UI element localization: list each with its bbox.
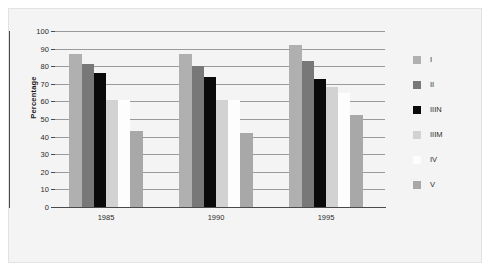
legend-swatch-icon <box>413 106 421 114</box>
y-axis-tick-label: 80 <box>40 62 49 71</box>
y-axis-tick-label: 40 <box>40 132 49 141</box>
legend-item-v[interactable]: V <box>413 172 477 197</box>
bar-iiin-1995 <box>314 79 326 207</box>
bar-iiim-1995 <box>326 87 338 207</box>
y-axis-tick-label: 30 <box>40 150 49 159</box>
legend-swatch-icon <box>413 131 421 139</box>
bar-v-1990 <box>240 133 252 207</box>
bar-ii-1995 <box>302 61 314 207</box>
bar-iv-1995 <box>338 93 350 207</box>
legend-item-iv[interactable]: IV <box>413 147 477 172</box>
plot-area <box>55 31 385 207</box>
y-axis-tick-label: 60 <box>40 97 49 106</box>
bar-iv-1990 <box>228 100 240 207</box>
bar-iiin-1990 <box>204 77 216 207</box>
legend-item-iiin[interactable]: IIIN <box>413 97 477 122</box>
y-axis-tick-label: 0 <box>45 203 49 212</box>
legend-swatch-icon <box>413 181 421 189</box>
x-axis-label-1985: 1985 <box>98 213 115 222</box>
bar-iiim-1985 <box>106 100 118 207</box>
legend-label: IV <box>430 155 437 164</box>
bar-iv-1985 <box>118 100 130 207</box>
bar-i-1985 <box>69 54 81 207</box>
y-axis-tick <box>51 207 55 208</box>
bar-v-1995 <box>350 115 362 207</box>
legend-label: I <box>430 55 432 64</box>
legend-swatch-icon <box>413 81 421 89</box>
bar-v-1985 <box>130 131 142 207</box>
chart-figure: 0102030405060708090100 Percentage 198519… <box>8 8 482 263</box>
legend-item-i[interactable]: I <box>413 47 477 72</box>
y-axis-tick-label: 90 <box>40 44 49 53</box>
y-axis-tick-label: 20 <box>40 167 49 176</box>
chart-legend: IIIIIINIIIMIVV <box>413 47 477 197</box>
legend-label: IIIM <box>430 130 443 139</box>
legend-label: IIIN <box>430 105 442 114</box>
y-axis-tick-labels: 0102030405060708090100 <box>23 9 49 264</box>
legend-item-iiim[interactable]: IIIM <box>413 122 477 147</box>
legend-label: II <box>430 80 434 89</box>
y-axis-tick-label: 70 <box>40 79 49 88</box>
y-axis-tick-label: 50 <box>40 115 49 124</box>
bar-i-1990 <box>179 54 191 207</box>
x-axis-label-1990: 1990 <box>208 213 225 222</box>
bar-iiim-1990 <box>216 100 228 207</box>
bar-i-1995 <box>289 45 301 207</box>
x-axis-line <box>55 207 386 208</box>
legend-label: V <box>430 180 435 189</box>
legend-swatch-icon <box>413 156 421 164</box>
bar-ii-1985 <box>82 64 94 207</box>
y-axis-tick-label: 10 <box>40 185 49 194</box>
legend-swatch-icon <box>413 56 421 64</box>
x-axis-label-1995: 1995 <box>318 213 335 222</box>
y-axis-tick-label: 100 <box>36 27 49 36</box>
y-axis-line <box>9 31 10 208</box>
y-axis-label: Percentage <box>29 68 38 128</box>
bar-ii-1990 <box>192 66 204 207</box>
bar-iiin-1985 <box>94 73 106 207</box>
legend-item-ii[interactable]: II <box>413 72 477 97</box>
